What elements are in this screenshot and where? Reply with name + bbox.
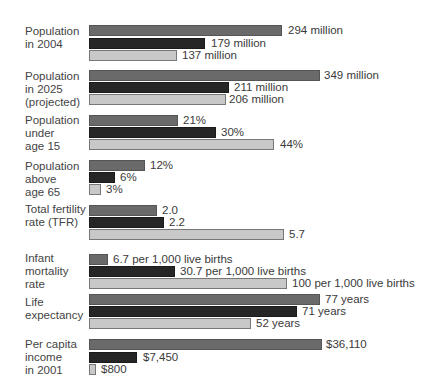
- label-line: under: [25, 127, 79, 140]
- value-label: 21%: [183, 114, 206, 126]
- value-label: $7,450: [143, 351, 178, 363]
- label-line: Population: [25, 114, 79, 127]
- value-label: 294 million: [288, 24, 343, 36]
- bar-population-2004-s2: [89, 38, 205, 49]
- value-label: 5.7: [289, 228, 305, 240]
- value-label: $36,110: [326, 338, 367, 350]
- value-label: 30.7 per 1,000 live births: [180, 265, 306, 277]
- bar-infant-mortality-s2: [89, 266, 175, 277]
- value-label: 349 million: [324, 69, 379, 81]
- label-line: Infant: [25, 252, 68, 265]
- label-line: mortality: [25, 265, 68, 278]
- label-line: (projected): [25, 96, 80, 109]
- group-label-tfr: Total fertility rate (TFR): [25, 203, 86, 229]
- value-label: 100 per 1,000 live births: [292, 277, 415, 289]
- bar-population-2025-s3: [89, 94, 226, 105]
- bar-population-2025-s2: [89, 82, 229, 93]
- bar-tfr-s3: [89, 229, 284, 240]
- label-line: above: [25, 173, 79, 186]
- group-label-above-65: Population above age 65: [25, 160, 79, 199]
- bar-population-2004-s3: [89, 50, 177, 61]
- value-label: 30%: [221, 126, 244, 138]
- value-label: $800: [101, 363, 127, 375]
- label-line: Population: [25, 70, 80, 83]
- label-line: age 15: [25, 140, 79, 153]
- bar-tfr-s1: [89, 205, 157, 216]
- label-line: age 65: [25, 186, 79, 199]
- label-line: income: [25, 351, 77, 364]
- bar-under-15-s3: [89, 139, 274, 150]
- bar-under-15-s2: [89, 127, 216, 138]
- bar-life-expectancy-s2: [89, 306, 297, 317]
- bar-life-expectancy-s3: [89, 318, 251, 329]
- label-line: Population: [25, 25, 79, 38]
- value-label: 206 million: [229, 93, 284, 105]
- label-line: in 2025: [25, 83, 80, 96]
- value-label: 6%: [120, 171, 137, 183]
- bar-under-15-s1: [89, 115, 178, 126]
- label-line: rate: [25, 278, 68, 291]
- value-label: 52 years: [256, 317, 300, 329]
- bar-above-65-s2: [89, 172, 115, 183]
- bar-infant-mortality-s1: [89, 254, 108, 265]
- bar-population-2004-s1: [89, 25, 282, 36]
- value-label: 2.2: [169, 216, 185, 228]
- bar-above-65-s3: [89, 184, 101, 195]
- value-label: 2.0: [162, 204, 178, 216]
- group-label-life-expectancy: Life expectancy: [25, 296, 83, 322]
- label-line: Per capita: [25, 338, 77, 351]
- label-line: Life: [25, 296, 83, 309]
- value-label: 3%: [106, 183, 123, 195]
- label-line: Population: [25, 160, 79, 173]
- label-line: Total fertility: [25, 203, 86, 216]
- label-line: in 2004: [25, 38, 79, 51]
- value-label: 137 million: [182, 49, 237, 61]
- label-line: rate (TFR): [25, 216, 86, 229]
- value-label: 71 years: [302, 305, 346, 317]
- bar-income-s2: [89, 352, 137, 363]
- bar-life-expectancy-s1: [89, 294, 320, 305]
- group-label-per-capita-income: Per capita income in 2001: [25, 338, 77, 377]
- value-label: 12%: [150, 159, 173, 171]
- group-label-infant-mortality: Infant mortality rate: [25, 252, 68, 291]
- value-label: 211 million: [234, 81, 288, 93]
- value-label: 6.7 per 1,000 live births: [113, 253, 233, 265]
- bar-infant-mortality-s3: [89, 278, 287, 289]
- bar-income-s1: [89, 339, 322, 350]
- bar-population-2025-s1: [89, 70, 320, 81]
- value-label: 179 million: [211, 37, 266, 49]
- bar-tfr-s2: [89, 217, 164, 228]
- label-line: expectancy: [25, 309, 83, 322]
- group-label-under-15: Population under age 15: [25, 114, 79, 153]
- group-label-population-2025: Population in 2025 (projected): [25, 70, 80, 109]
- value-label: 44%: [280, 138, 303, 150]
- label-line: in 2001: [25, 364, 77, 377]
- bar-above-65-s1: [89, 160, 145, 171]
- value-label: 77 years: [325, 293, 369, 305]
- bar-income-s3: [89, 364, 96, 375]
- group-label-population-2004: Population in 2004: [25, 25, 79, 51]
